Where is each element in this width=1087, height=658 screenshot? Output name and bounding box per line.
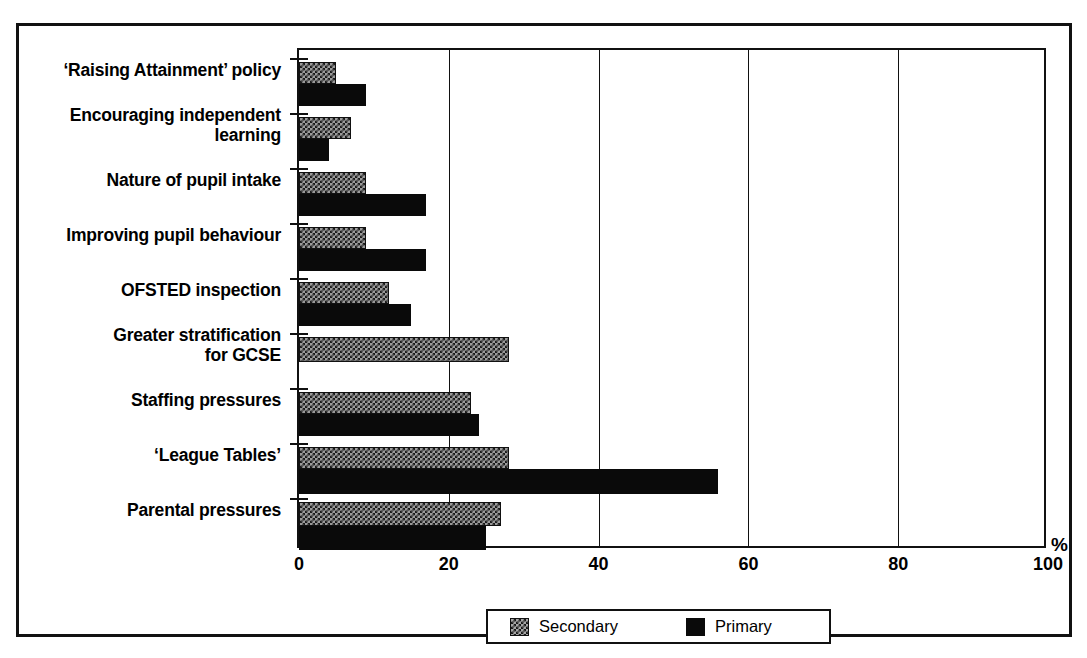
bar-secondary-ofsted-inspection [299, 282, 389, 304]
ytick-7 [290, 443, 308, 445]
ytick-8 [290, 498, 308, 500]
ytick-2 [290, 168, 308, 170]
ytick-5 [290, 333, 308, 335]
bar-secondary-league-tables [299, 447, 509, 469]
bar-primary-league-tables [299, 469, 718, 494]
solid-black-swatch-icon [686, 618, 705, 636]
chart-figure-frame: ‘Raising Attainment’ policy Encouraging … [16, 23, 1072, 637]
category-label-improving-pupil-behaviour: Improving pupil behaviour [19, 225, 281, 245]
bar-secondary-raising-attainment [299, 62, 336, 84]
bar-primary-nature-of-pupil-intake [299, 194, 426, 216]
category-label-nature-of-pupil-intake: Nature of pupil intake [19, 170, 281, 190]
legend-entry-primary: Primary [686, 617, 772, 636]
x-axis-tick-labels: 0 20 40 60 80 100 [297, 554, 1057, 582]
bar-primary-staffing-pressures [299, 414, 479, 436]
category-axis-labels: ‘Raising Attainment’ policy Encouraging … [19, 48, 281, 548]
category-label-encouraging-independent-learning: Encouraging independent learning [19, 105, 281, 145]
ytick-6 [290, 388, 308, 390]
checkered-swatch-icon [510, 618, 529, 636]
category-label-league-tables: ‘League Tables’ [19, 445, 281, 465]
bar-primary-parental-pressures [299, 526, 486, 550]
ytick-3 [290, 223, 308, 225]
ytick-0 [290, 58, 308, 60]
chart-legend: Secondary Primary [486, 609, 831, 644]
gridline-80 [898, 50, 899, 546]
category-label-staffing-pressures: Staffing pressures [19, 390, 281, 410]
ytick-1 [290, 113, 308, 115]
bar-secondary-greater-stratification-for-gcse [299, 337, 509, 362]
xtick-label-0: 0 [294, 554, 304, 575]
legend-entry-secondary: Secondary [510, 617, 618, 636]
bar-primary-encouraging-independent-learning [299, 139, 329, 161]
bar-secondary-improving-pupil-behaviour [299, 227, 366, 249]
category-label-parental-pressures: Parental pressures [19, 500, 281, 520]
xtick-label-60: 60 [738, 554, 758, 575]
bar-primary-ofsted-inspection [299, 304, 411, 326]
gridline-60 [748, 50, 749, 546]
ytick-4 [290, 278, 308, 280]
category-label-greater-stratification-for-gcse: Greater stratification for GCSE [19, 325, 281, 365]
bar-secondary-encouraging-independent-learning [299, 117, 351, 139]
xtick-label-80: 80 [888, 554, 908, 575]
plot-area [297, 48, 1046, 548]
xtick-label-20: 20 [439, 554, 459, 575]
category-label-raising-attainment: ‘Raising Attainment’ policy [19, 60, 281, 80]
legend-label-primary: Primary [715, 617, 772, 636]
bar-primary-raising-attainment [299, 84, 366, 106]
bar-secondary-staffing-pressures [299, 392, 471, 414]
bar-primary-improving-pupil-behaviour [299, 249, 426, 271]
xtick-label-100: 100 [1033, 554, 1063, 575]
category-label-ofsted-inspection: OFSTED inspection [19, 280, 281, 300]
bar-secondary-parental-pressures [299, 502, 501, 526]
bar-secondary-nature-of-pupil-intake [299, 172, 366, 194]
x-axis-unit-label: % [1051, 534, 1068, 556]
legend-label-secondary: Secondary [539, 617, 618, 636]
xtick-label-40: 40 [589, 554, 609, 575]
